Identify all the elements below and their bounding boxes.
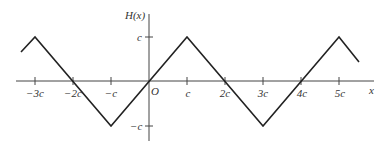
x-tick-label: −3c [26, 87, 44, 99]
y-tick-label-neg-c: −c [130, 120, 142, 132]
x-tick-label: 4c [297, 87, 308, 99]
x-tick-label: 3c [257, 87, 269, 99]
x-tick-label: 2c [220, 87, 231, 99]
y-tick-label-c: c [137, 31, 142, 43]
origin-label: O [151, 85, 159, 97]
x-tick-label: c [186, 87, 191, 99]
x-tick-label: 5c [335, 87, 346, 99]
x-tick-label: −c [105, 87, 117, 99]
x-tick-label: −2c [64, 87, 82, 99]
triangle-wave-chart: H(x) x O c −c −3c −2c −c c 2c 3c 4c 5c [0, 0, 388, 151]
x-axis-label: x [368, 84, 374, 96]
y-axis-label: H(x) [124, 9, 145, 22]
